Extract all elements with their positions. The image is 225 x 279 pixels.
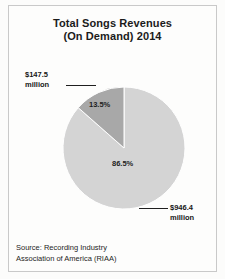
chart-figure: Total Songs Revenues (On Demand) 2014 13…: [0, 0, 225, 279]
callout-left-amount: $147.5: [25, 70, 48, 79]
callout-right-unit: million: [170, 213, 194, 222]
callout-left-unit: million: [25, 80, 49, 89]
chart-title-line-1: Total Songs Revenues: [12, 17, 213, 30]
pie-slice-small-percent-label: 13.5%: [89, 100, 110, 109]
callout-right-amount: $946.4: [170, 203, 193, 212]
callout-right-leader-line: [139, 208, 168, 209]
callout-left-leader-line: [66, 85, 96, 86]
source-note: Source: Recording Industry Association o…: [16, 243, 116, 264]
chart-title-line-2: (On Demand) 2014: [12, 30, 213, 43]
callout-left: $147.5 million: [25, 70, 49, 90]
pie-chart-svg: [62, 86, 186, 210]
chart-title: Total Songs Revenues (On Demand) 2014: [12, 17, 213, 43]
pie-chart: [62, 86, 186, 210]
source-note-line-2: Association of America (RIAA): [16, 254, 116, 265]
source-note-line-1: Source: Recording Industry: [16, 243, 116, 254]
callout-right: $946.4 million: [170, 203, 194, 223]
pie-slice-large-percent-label: 86.5%: [112, 159, 133, 168]
